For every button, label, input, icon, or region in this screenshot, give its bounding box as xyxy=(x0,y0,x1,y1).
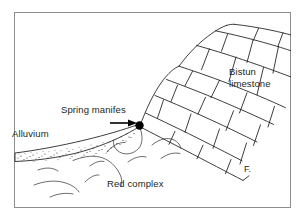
label-bistun-line1: Bistun xyxy=(229,66,271,78)
red-complex-wave-9 xyxy=(50,193,73,197)
joint-f3 xyxy=(213,129,220,148)
bedding-plane-1 xyxy=(234,24,291,35)
joint-g2 xyxy=(197,145,203,159)
label-fault: F. xyxy=(244,164,251,176)
red-complex-wave-4 xyxy=(85,175,99,182)
joint-g3 xyxy=(226,160,232,174)
limestone-outline xyxy=(140,25,227,126)
label-bistun-limestone: Bistun limestone xyxy=(229,66,271,89)
joint-d3 xyxy=(240,93,248,113)
red-complex-wave-5 xyxy=(107,142,125,152)
bedding-plane-6 xyxy=(155,96,257,143)
label-alluvium: Alluvium xyxy=(12,128,49,140)
label-bistun-line2: limestone xyxy=(229,78,271,90)
red-complex-wave-2 xyxy=(38,168,58,171)
red-complex-wave-3 xyxy=(34,181,79,192)
joint-e1 xyxy=(171,85,178,101)
joint-b2 xyxy=(247,40,253,62)
joint-e3 xyxy=(226,111,234,130)
joint-f2 xyxy=(185,114,191,132)
label-spring-manifes: Spring manifes xyxy=(61,104,126,116)
geological-cross-section-figure: Bistun limestone Spring manifes Alluvium… xyxy=(0,0,305,221)
limestone-crest xyxy=(227,24,235,25)
bistun-limestone-unit xyxy=(140,24,291,180)
joint-d2 xyxy=(211,80,220,98)
joint-d4 xyxy=(268,106,275,127)
joint-f1 xyxy=(158,100,164,118)
joint-e2 xyxy=(198,97,206,114)
joint-f4 xyxy=(240,143,247,164)
joint-g1 xyxy=(169,131,175,144)
red-complex-wave-7 xyxy=(161,153,180,158)
joint-d1 xyxy=(185,71,193,85)
joint-a2 xyxy=(278,33,283,46)
red-complex-wave-10 xyxy=(90,161,104,166)
joint-b1 xyxy=(222,34,228,51)
label-red-complex: Red complex xyxy=(107,178,164,190)
spring-point-dot xyxy=(135,121,143,129)
fault-leader xyxy=(243,176,249,181)
joint-b3 xyxy=(273,46,279,73)
red-complex-wave-8 xyxy=(128,157,146,162)
joint-a1 xyxy=(254,28,259,40)
joint-c1 xyxy=(202,49,210,70)
